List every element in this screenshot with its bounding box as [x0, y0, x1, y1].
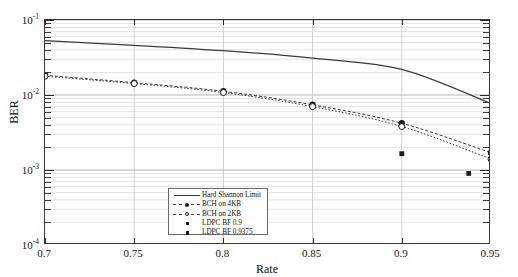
legend-item-ldpc-bf-0-9375[interactable]: LDPC BF 0.9375 — [172, 228, 265, 237]
y-tick — [45, 222, 51, 223]
y-tick — [45, 27, 51, 28]
data-point-bch-on-4kb — [488, 150, 490, 156]
x-tick-label: 0.8 — [216, 247, 230, 259]
legend-symbol-filled-square — [172, 219, 202, 228]
y-tick — [45, 147, 51, 148]
y-tick — [45, 173, 51, 174]
y-tick — [483, 59, 489, 60]
x-tick — [134, 238, 135, 243]
legend-symbol-dashed-open-circle — [172, 210, 202, 219]
y-tick — [480, 20, 489, 21]
series-line-bch-on-4kb — [45, 75, 490, 152]
legend-label: LDPC BF 0.9375 — [202, 228, 253, 237]
y-tick — [45, 200, 51, 201]
y-tick — [483, 147, 489, 148]
legend-symbol-solid-line — [172, 191, 202, 200]
legend-label: BCH on 4KB — [202, 200, 241, 209]
chart-figure: 10-110-210-310-4 0.70.750.80.850.90.95 B… — [0, 0, 518, 277]
y-tick — [483, 118, 489, 119]
x-tick — [402, 20, 403, 25]
data-series-layer — [45, 41, 490, 159]
legend-item-hard-shannon-limit[interactable]: Hard Shannon Limit — [172, 191, 265, 200]
x-tick — [45, 20, 46, 25]
y-tick — [483, 107, 489, 108]
legend-item-ldpc-bf-0-9[interactable]: LDPC BF 0.9 — [172, 219, 265, 228]
y-tick — [45, 98, 51, 99]
y-tick — [45, 193, 51, 194]
y-tick — [45, 20, 54, 21]
legend-symbol-dashed-filled-circle — [172, 200, 202, 209]
y-tick — [483, 187, 489, 188]
y-tick — [483, 193, 489, 194]
y-tick — [483, 200, 489, 201]
y-tick — [45, 32, 51, 33]
data-point-bch-on-2kb — [488, 156, 490, 162]
x-tick — [223, 238, 224, 243]
chart-legend[interactable]: Hard Shannon Limit BCH on 4KB BCH on 2KB… — [168, 188, 268, 235]
data-point-bch-on-2kb — [45, 73, 48, 79]
legend-item-bch-on-2kb[interactable]: BCH on 2KB — [172, 210, 265, 219]
y-tick — [45, 95, 54, 96]
y-tick — [480, 95, 489, 96]
y-tick — [45, 112, 51, 113]
x-tick-label: 0.85 — [302, 247, 321, 259]
y-tick — [45, 209, 51, 210]
y-tick — [480, 170, 489, 171]
y-tick — [45, 43, 51, 44]
x-axis-title: Rate — [256, 262, 278, 277]
y-tick — [483, 98, 489, 99]
legend-item-bch-on-4kb[interactable]: BCH on 4KB — [172, 200, 265, 209]
y-tick — [45, 107, 51, 108]
y-tick — [483, 102, 489, 103]
x-tick — [45, 238, 46, 243]
x-tick — [313, 238, 314, 243]
data-point-ldpc-bf-0-9 — [399, 151, 404, 156]
y-tick-label: 10-1 — [22, 12, 39, 26]
legend-label: BCH on 2KB — [202, 210, 241, 219]
x-tick — [313, 20, 314, 25]
y-tick — [45, 72, 51, 73]
y-tick — [45, 125, 51, 126]
y-tick — [483, 173, 489, 174]
y-tick — [45, 37, 51, 38]
data-point-bch-on-2kb — [131, 81, 137, 87]
y-tick — [45, 134, 51, 135]
y-tick — [483, 43, 489, 44]
x-tick — [223, 20, 224, 25]
x-tick-label: 0.7 — [37, 247, 51, 259]
y-axis-title: BER — [7, 82, 22, 142]
data-point-bch-on-2kb — [399, 124, 405, 130]
y-tick — [45, 182, 51, 183]
y-tick-label: 10-2 — [22, 87, 39, 101]
y-tick — [483, 27, 489, 28]
data-point-ldpc-bf-0-9375 — [466, 171, 471, 176]
legend-label: LDPC BF 0.9 — [202, 219, 242, 228]
y-tick-label: 10-3 — [22, 162, 39, 176]
legend-symbol-filled-square — [172, 228, 202, 237]
y-tick — [483, 209, 489, 210]
y-tick — [45, 170, 54, 171]
data-point-bch-on-2kb — [220, 89, 226, 95]
y-tick — [45, 102, 51, 103]
y-tick — [45, 118, 51, 119]
y-tick — [483, 23, 489, 24]
legend-label: Hard Shannon Limit — [202, 191, 261, 200]
x-tick — [134, 20, 135, 25]
y-tick — [483, 222, 489, 223]
y-tick — [483, 72, 489, 73]
y-tick — [483, 112, 489, 113]
data-markers-layer — [45, 72, 490, 176]
y-tick — [45, 59, 51, 60]
x-tick-label: 0.9 — [394, 247, 408, 259]
y-tick — [483, 32, 489, 33]
x-tick-label: 0.75 — [124, 247, 143, 259]
x-tick-label: 0.95 — [480, 247, 499, 259]
y-tick — [483, 182, 489, 183]
y-tick — [45, 50, 51, 51]
y-tick — [483, 50, 489, 51]
y-tick — [483, 134, 489, 135]
y-tick — [483, 125, 489, 126]
x-tick — [402, 238, 403, 243]
y-tick — [483, 37, 489, 38]
y-tick — [45, 177, 51, 178]
